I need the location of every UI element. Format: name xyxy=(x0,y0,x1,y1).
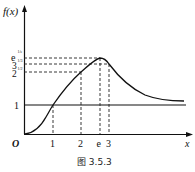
y-tick-1: 1 xyxy=(14,100,19,111)
origin-label: O xyxy=(12,138,19,149)
function-curve xyxy=(25,58,184,134)
svg-text:1/3: 1/3 xyxy=(18,58,23,63)
x-axis-label: x xyxy=(184,138,190,149)
x-tick-2: 2 xyxy=(78,138,83,149)
y-axis-arrow-icon xyxy=(22,5,27,12)
x-tick-e: e xyxy=(97,138,102,149)
dashed-guides xyxy=(24,58,109,134)
svg-text:2: 2 xyxy=(12,69,17,79)
function-graph: f(x) 1 e 1/e 3 1/3 2 1/2 O 1 2 e 3 x 图 3… xyxy=(0,0,195,172)
y-axis-label: f(x) xyxy=(3,5,19,18)
svg-text:1/e: 1/e xyxy=(18,49,23,54)
figure-caption: 图 3.5.3 xyxy=(77,157,112,167)
x-axis-arrow-icon xyxy=(186,132,193,137)
x-tick-1: 1 xyxy=(50,138,55,149)
x-tick-3: 3 xyxy=(106,138,111,149)
svg-text:1/2: 1/2 xyxy=(18,66,23,71)
